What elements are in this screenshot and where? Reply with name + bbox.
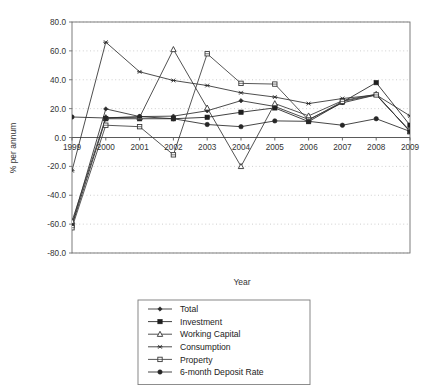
legend-label: Investment: [180, 317, 223, 327]
data-point-marker: [205, 52, 209, 56]
x-tick-label: 2004: [232, 143, 251, 152]
data-point-marker: [340, 99, 344, 103]
x-tick-label: 2008: [367, 143, 386, 152]
data-point-marker: [374, 93, 378, 97]
x-tick-label: 2009: [401, 143, 420, 152]
x-tick-label: 2007: [333, 143, 352, 152]
data-point-marker: [104, 123, 108, 127]
data-point-marker: [239, 110, 243, 114]
data-point-marker: [158, 319, 162, 323]
y-tick-label: 40.0: [50, 76, 66, 85]
y-tick-label: 20.0: [50, 105, 66, 114]
x-tick-label: 2003: [198, 143, 217, 152]
data-point-marker: [340, 123, 344, 127]
data-point-marker: [205, 122, 209, 126]
data-point-marker: [158, 357, 162, 361]
y-tick-label: -60.0: [47, 220, 66, 229]
data-point-marker: [137, 124, 141, 128]
data-point-marker: [171, 117, 175, 121]
data-point-marker: [137, 114, 141, 118]
data-point-marker: [374, 80, 378, 84]
data-point-marker: [239, 81, 243, 85]
legend-label: 6-month Deposit Rate: [180, 367, 264, 377]
legend-label: Working Capital: [180, 329, 241, 339]
y-tick-label: 0.0: [55, 134, 67, 143]
data-point-marker: [104, 116, 108, 120]
y-tick-label: -80.0: [47, 249, 66, 258]
y-tick-label: 80.0: [50, 18, 66, 27]
x-tick-label: 2002: [164, 143, 183, 152]
legend-label: Consumption: [180, 342, 231, 352]
legend-label: Property: [180, 355, 213, 365]
data-point-marker: [158, 370, 162, 374]
x-tick-label: 2006: [299, 143, 318, 152]
data-point-marker: [205, 115, 209, 119]
y-axis-title: % per annum: [8, 123, 18, 174]
chart-figure: 80.060.040.020.00.0-20.0-40.0-60.0-80.0 …: [0, 0, 424, 385]
data-point-marker: [306, 119, 310, 123]
y-tick-label: 60.0: [50, 47, 66, 56]
data-point-marker: [374, 117, 378, 121]
chart-legend: TotalInvestmentWorking CapitalConsumptio…: [138, 300, 310, 385]
data-point-marker: [273, 82, 277, 86]
data-point-marker: [273, 119, 277, 123]
y-tick-label: -20.0: [47, 162, 66, 171]
data-point-marker: [171, 153, 175, 157]
line-chart-canvas: 80.060.040.020.00.0-20.0-40.0-60.0-80.0 …: [0, 0, 424, 385]
x-tick-label: 2001: [130, 143, 149, 152]
x-axis-title: Year: [233, 277, 250, 287]
data-point-marker: [239, 124, 243, 128]
y-tick-label: -40.0: [47, 191, 66, 200]
x-tick-label: 2005: [266, 143, 285, 152]
legend-label: Total: [180, 304, 198, 314]
